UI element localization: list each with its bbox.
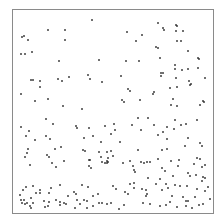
scatter-point xyxy=(174,64,176,66)
scatter-point xyxy=(157,22,159,24)
scatter-point xyxy=(204,190,206,192)
scatter-point xyxy=(162,131,164,133)
scatter-point xyxy=(175,77,177,79)
scatter-point xyxy=(137,117,139,119)
scatter-point xyxy=(129,90,131,92)
scatter-point xyxy=(207,186,209,188)
scatter-point xyxy=(89,159,91,161)
scatter-point xyxy=(47,29,49,31)
scatter-point xyxy=(46,154,48,156)
scatter-point xyxy=(201,145,203,147)
scatter-point xyxy=(177,165,179,167)
scatter-point xyxy=(106,151,108,153)
scatter-point xyxy=(24,203,26,205)
scatter-point xyxy=(196,157,198,159)
scatter-point xyxy=(176,105,178,107)
scatter-point xyxy=(142,202,144,204)
scatter-point xyxy=(174,184,176,186)
scatter-point xyxy=(143,162,145,164)
scatter-point xyxy=(162,27,164,29)
scatter-point xyxy=(106,203,108,205)
scatter-point xyxy=(32,185,34,187)
scatter-point xyxy=(64,39,66,41)
scatter-point xyxy=(159,57,161,59)
scatter-point xyxy=(182,30,184,32)
scatter-point xyxy=(52,123,54,125)
scatter-point xyxy=(21,202,23,204)
scatter-point xyxy=(39,192,41,194)
scatter-point xyxy=(123,101,125,103)
scatter-point xyxy=(123,204,125,206)
scatter-point xyxy=(62,105,64,107)
scatter-point xyxy=(75,193,77,195)
scatter-point xyxy=(198,204,200,206)
scatter-point xyxy=(133,187,135,189)
scatter-point xyxy=(63,202,65,204)
scatter-point xyxy=(165,183,167,185)
scatter-point xyxy=(110,150,112,152)
scatter-point xyxy=(48,201,50,203)
scatter-point xyxy=(174,68,176,70)
scatter-point xyxy=(193,163,195,165)
scatter-point xyxy=(49,138,51,140)
scatter-point xyxy=(112,155,114,157)
scatter-point xyxy=(163,29,165,31)
scatter-point xyxy=(185,123,187,125)
scatter-point xyxy=(135,40,137,42)
scatter-point xyxy=(161,149,163,151)
scatter-point xyxy=(57,78,59,80)
scatter-points xyxy=(0,0,224,223)
scatter-point xyxy=(204,77,206,79)
scatter-point xyxy=(176,40,178,42)
scatter-point xyxy=(75,125,77,127)
scatter-point xyxy=(159,178,161,180)
scatter-point xyxy=(153,124,155,126)
scatter-point xyxy=(165,204,167,206)
scatter-point xyxy=(152,93,154,95)
scatter-point xyxy=(146,161,148,163)
scatter-point xyxy=(27,39,29,41)
scatter-point xyxy=(86,200,88,202)
scatter-point xyxy=(34,139,36,141)
scatter-point xyxy=(21,36,23,38)
scatter-point xyxy=(79,203,81,205)
scatter-point xyxy=(30,79,32,81)
scatter-point xyxy=(185,205,187,207)
scatter-point xyxy=(45,135,47,137)
scatter-point xyxy=(139,99,141,101)
scatter-point xyxy=(20,126,22,128)
scatter-point xyxy=(22,189,24,191)
scatter-point xyxy=(92,205,94,207)
scatter-point xyxy=(187,172,189,174)
scatter-point xyxy=(160,75,162,77)
scatter-point xyxy=(199,104,201,106)
scatter-point xyxy=(32,202,34,204)
scatter-point xyxy=(132,165,134,167)
scatter-point xyxy=(126,31,128,33)
scatter-point xyxy=(26,202,28,204)
scatter-point xyxy=(187,200,189,202)
scatter-point xyxy=(162,72,164,74)
scatter-point xyxy=(169,87,171,89)
scatter-point xyxy=(28,130,30,132)
scatter-point xyxy=(187,68,189,70)
scatter-point xyxy=(29,205,31,207)
scatter-point xyxy=(65,203,67,205)
scatter-point xyxy=(145,195,147,197)
scatter-point xyxy=(149,161,151,163)
scatter-point xyxy=(157,134,159,136)
scatter-point xyxy=(107,157,109,159)
scatter-point xyxy=(169,201,171,203)
scatter-point xyxy=(129,160,131,162)
scatter-point xyxy=(161,167,163,169)
scatter-point xyxy=(106,160,108,162)
scatter-point xyxy=(92,135,94,137)
scatter-point xyxy=(86,207,88,209)
scatter-point xyxy=(45,118,47,120)
scatter-point xyxy=(189,175,191,177)
scatter-point xyxy=(60,146,62,148)
scatter-point xyxy=(127,193,129,195)
scatter-point xyxy=(34,100,36,102)
scatter-point xyxy=(178,159,180,161)
scatter-point xyxy=(189,84,191,86)
